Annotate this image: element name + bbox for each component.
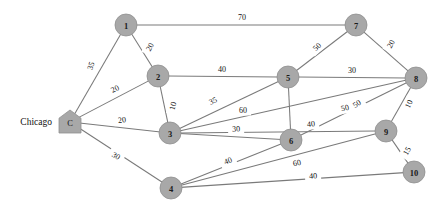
edge-weight-text: 30 (232, 124, 240, 133)
edge-C-1 (75, 33, 122, 114)
edge-4-9 (180, 133, 377, 185)
edge-weight-text: 20 (118, 115, 127, 125)
edge-label-2-3: 10 (166, 97, 180, 115)
edge-weight-text: 40 (309, 171, 317, 180)
edge-label-5-8: 30 (344, 65, 360, 76)
edge-label-4-6: 40 (219, 153, 238, 169)
edge-label-5-6: 60 (235, 105, 251, 116)
edge-label-C-3: 20 (113, 114, 130, 127)
edge-label-3-6: 30 (228, 123, 245, 135)
edge-weight-text: 30 (348, 66, 356, 75)
depot-caption-label: Chicago (20, 117, 52, 127)
edge-3-5 (179, 81, 280, 129)
edge-4-10 (180, 173, 404, 188)
node-8-label: 8 (414, 74, 418, 84)
edge-label-4-10: 40 (305, 170, 322, 182)
edge-5-7 (296, 31, 349, 71)
node-C-label: C (67, 118, 73, 128)
edge-7-8 (363, 31, 409, 71)
edge-label-C-4: 30 (106, 147, 125, 165)
edge-weight-text: 40 (307, 119, 316, 129)
edge-5-8 (298, 77, 407, 78)
edge-label-4-9: 60 (288, 156, 306, 170)
node-1-label: 1 (124, 21, 128, 31)
node-2-label: 2 (156, 72, 160, 82)
edge-label-3-9: 40 (302, 118, 319, 131)
edge-label-9-10: 15 (398, 141, 416, 160)
edge-3-9 (180, 131, 377, 133)
node-6-label: 6 (289, 136, 293, 146)
edge-weight-text: 60 (239, 106, 247, 115)
edge-label-2-5: 40 (214, 64, 230, 75)
edge-label-8-9: 10 (401, 94, 418, 113)
edge-2-5 (168, 76, 279, 77)
node-9-label: 9 (384, 127, 388, 137)
edge-label-C-1: 35 (83, 57, 99, 76)
node-10-label: 10 (410, 168, 419, 178)
edge-5-6 (288, 86, 290, 130)
node-5-label: 5 (286, 73, 290, 83)
edge-label-3-5: 35 (203, 93, 222, 110)
edge-weight-text: 40 (218, 65, 226, 74)
network-diagram: C12345678910 352020302070104035305040406… (0, 0, 441, 210)
edge-label-1-7: 70 (234, 12, 250, 23)
node-3-label: 3 (168, 129, 172, 139)
edge-label-5-7: 50 (307, 38, 326, 57)
edge-weight-text: 70 (238, 13, 246, 22)
network-diagram-canvas: C12345678910 352020302070104035305040406… (0, 0, 441, 210)
edge-2-3 (160, 85, 168, 123)
